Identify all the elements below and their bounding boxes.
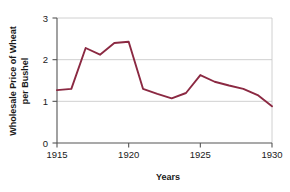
x-tick-label-1920: 1920: [118, 149, 139, 160]
y-axis-ticks: [53, 18, 58, 143]
x-tick-label-1915: 1915: [46, 149, 67, 160]
y-tick-label-1: 1: [43, 96, 48, 107]
plot-area-background: [57, 18, 272, 143]
x-axis-ticks: [57, 143, 272, 148]
x-tick-label-1930: 1930: [261, 149, 282, 160]
line-chart: 3 2 1 0 1915 1920 1925 1930 Years Wholes…: [0, 0, 290, 192]
x-axis-title: Years: [156, 172, 180, 182]
y-axis-title-line-2: per Bushel: [20, 58, 30, 105]
x-tick-label-1925: 1925: [190, 149, 211, 160]
y-tick-label-0: 0: [43, 138, 48, 149]
y-tick-label-2: 2: [43, 54, 48, 65]
chart-figure: 3 2 1 0 1915 1920 1925 1930 Years Wholes…: [0, 0, 290, 192]
y-axis-title-line-1: Wholesale Price of Wheat: [8, 26, 18, 136]
y-tick-label-3: 3: [43, 13, 48, 24]
